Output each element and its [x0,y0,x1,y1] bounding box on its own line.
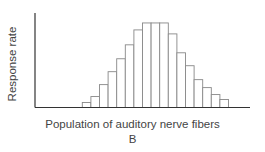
histogram-bar [134,30,143,108]
histogram-bar [91,97,100,108]
histogram-bar [82,103,91,108]
histogram-bar [108,72,117,108]
panel-label: B [0,133,265,145]
histogram-bar [220,100,229,108]
bars-group [82,23,228,108]
histogram-bar [100,85,109,108]
y-axis-label: Response rate [3,24,21,104]
histogram-bar [211,95,220,108]
histogram-bar [117,59,126,108]
histogram-bar [143,23,152,108]
histogram-bar [177,53,186,108]
y-axis-label-text: Response rate [6,27,18,102]
histogram-bar [125,45,134,108]
histogram-bar [186,66,195,108]
histogram-bar [203,88,212,108]
histogram-bar [168,34,177,108]
histogram-bar [194,80,203,108]
histogram-bar [160,23,169,108]
histogram-bar [151,23,160,108]
x-axis-label: Population of auditory nerve fibers [0,118,265,130]
